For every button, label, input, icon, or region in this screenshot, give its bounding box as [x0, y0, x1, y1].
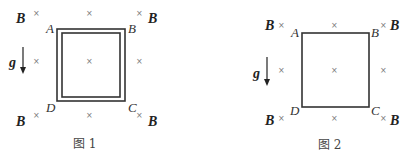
vertex-label-a: A: [45, 21, 54, 36]
cross-icon: ×: [331, 66, 338, 75]
diagram-canvas: × × × × × × × × × B B B B A B C D g 图 1 …: [0, 0, 405, 159]
cross-icon: ×: [278, 114, 285, 123]
cross-icon: ×: [380, 66, 387, 75]
cross-icon: ×: [278, 21, 285, 30]
gravity-label: g: [252, 66, 260, 81]
vertex-label-d: D: [289, 103, 300, 118]
field-label: B: [389, 113, 399, 128]
figure-caption: 图 1: [73, 137, 96, 151]
field-label: B: [264, 113, 274, 128]
cross-icon: ×: [86, 9, 93, 18]
figure-1: × × × × × × × × × B B B B A B C D g 图 1: [8, 9, 157, 151]
cross-icon: ×: [331, 114, 338, 123]
cross-icon: ×: [86, 111, 93, 120]
field-label: B: [264, 18, 274, 33]
cross-icon: ×: [136, 9, 143, 18]
field-label: B: [147, 114, 157, 129]
cross-icon: ×: [331, 21, 338, 30]
gravity-arrow-icon: [264, 57, 270, 86]
field-label: B: [147, 11, 157, 26]
cross-icon: ×: [136, 111, 143, 120]
field-label: B: [15, 114, 25, 129]
field-label: B: [15, 11, 25, 26]
cross-icon: ×: [86, 57, 93, 66]
cross-icon: ×: [33, 57, 40, 66]
cross-icon: ×: [136, 57, 143, 66]
cross-icon: ×: [33, 111, 40, 120]
figure-2: × × × × × × × × × B B B B A B C D g 图 2: [252, 18, 399, 152]
field-label: B: [389, 18, 399, 33]
vertex-label-d: D: [45, 100, 56, 115]
vertex-label-c: C: [128, 100, 137, 115]
cross-icon: ×: [380, 114, 387, 123]
vertex-label-b: B: [128, 21, 136, 36]
figure-caption: 图 2: [318, 138, 341, 152]
vertex-label-c: C: [371, 103, 380, 118]
cross-icon: ×: [380, 21, 387, 30]
vertex-label-b: B: [371, 25, 379, 40]
gravity-arrow-icon: [20, 47, 26, 74]
cross-icon: ×: [278, 66, 285, 75]
vertex-label-a: A: [290, 25, 299, 40]
gravity-label: g: [8, 55, 16, 70]
cross-icon: ×: [33, 9, 40, 18]
